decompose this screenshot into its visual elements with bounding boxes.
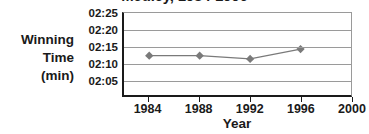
- x-axis-title: Year: [122, 116, 352, 131]
- data-point-marker: [246, 55, 254, 63]
- gridline: [124, 81, 351, 82]
- gridline: [124, 30, 351, 31]
- series-line: [149, 49, 300, 59]
- y-axis-tick-label: 02:15: [74, 41, 118, 53]
- y-axis-title-line-1: Winning: [2, 31, 74, 49]
- gridline: [124, 47, 351, 48]
- y-axis-title-line-3: (min): [2, 67, 74, 85]
- y-axis-tick-label: 02:20: [74, 24, 118, 36]
- y-axis-title-line-2: Time: [2, 49, 74, 67]
- data-point-marker: [196, 52, 204, 60]
- series-winning-time: [124, 13, 351, 95]
- y-axis-tick-label: 02:25: [74, 7, 118, 19]
- plot-area: [122, 12, 352, 97]
- winning-time-line-chart: Medley, 1984-1996 Winning Time (min) 02:…: [0, 0, 369, 134]
- x-axis-tick-label: 2000: [322, 102, 369, 116]
- y-axis-tick-label: 02:10: [74, 58, 118, 70]
- data-point-marker: [145, 52, 153, 60]
- gridline: [124, 64, 351, 65]
- chart-title: Medley, 1984-1996: [0, 0, 369, 4]
- y-axis-title: Winning Time (min): [2, 31, 74, 85]
- y-axis-tick-label: 02:05: [74, 75, 118, 87]
